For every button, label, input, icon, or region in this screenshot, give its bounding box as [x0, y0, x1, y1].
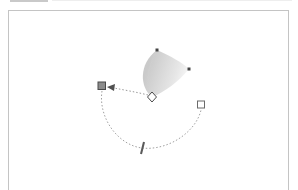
rotation-guide-line [114, 88, 148, 95]
top-node-handle[interactable] [156, 49, 159, 52]
right-node-handle[interactable] [188, 68, 191, 71]
rotation-arrow-icon [107, 84, 115, 91]
gradient-wedge[interactable] [143, 50, 189, 97]
rotation-end-handle[interactable] [198, 101, 205, 108]
rotation-start-handle[interactable] [98, 82, 106, 90]
drawing-stage[interactable] [0, 0, 298, 184]
